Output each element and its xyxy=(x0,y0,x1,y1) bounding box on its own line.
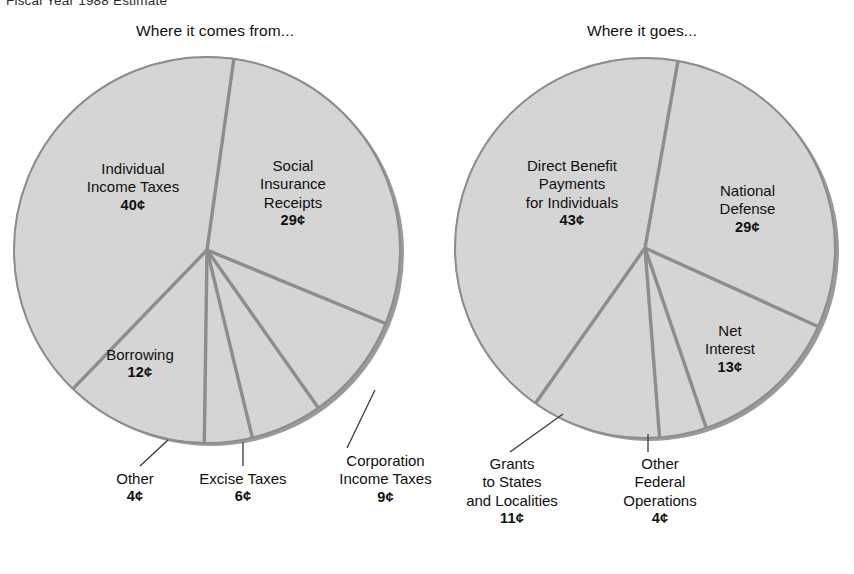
label-line-3: and Localities xyxy=(432,492,592,510)
label-line-1: Excise Taxes xyxy=(178,470,308,488)
label-value: 11¢ xyxy=(432,510,592,528)
label-line-2: Defense xyxy=(690,200,805,218)
label-value: 43¢ xyxy=(482,212,662,230)
label-value: 29¢ xyxy=(690,219,805,237)
label-line-2: Income Taxes xyxy=(58,178,208,196)
label-line-2: to States xyxy=(432,473,592,491)
leader-line-corporation xyxy=(347,390,375,448)
slice-label-excise-taxes: Excise Taxes 6¢ xyxy=(178,470,308,506)
label-value: 13¢ xyxy=(680,359,780,377)
label-line-2: Interest xyxy=(680,340,780,358)
slice-label-net-interest: Net Interest 13¢ xyxy=(680,322,780,376)
label-line-3: Receipts xyxy=(228,194,358,212)
slice-label-individual-income-taxes: Individual Income Taxes 40¢ xyxy=(58,160,208,214)
label-line-2: Insurance xyxy=(228,175,358,193)
slice-label-social-insurance-receipts: Social Insurance Receipts 29¢ xyxy=(228,157,358,230)
label-line-1: National xyxy=(690,182,805,200)
label-line-1: Direct Benefit xyxy=(482,157,662,175)
label-value: 40¢ xyxy=(58,197,208,215)
label-value: 6¢ xyxy=(178,488,308,506)
label-line-1: Borrowing xyxy=(75,346,205,364)
pie-chart-where-it-goes xyxy=(455,58,839,441)
label-line-1: Other xyxy=(95,470,175,488)
leader-line-other xyxy=(140,440,168,466)
label-value: 12¢ xyxy=(75,364,205,382)
label-line-1: Net xyxy=(680,322,780,340)
label-line-3: for Individuals xyxy=(482,194,662,212)
label-line-2: Federal xyxy=(600,473,720,491)
label-value: 4¢ xyxy=(600,510,720,528)
slice-label-borrowing: Borrowing 12¢ xyxy=(75,346,205,382)
label-line-1: Grants xyxy=(432,455,592,473)
label-value: 29¢ xyxy=(228,212,358,230)
pie-chart-where-it-comes-from xyxy=(14,57,404,446)
slice-label-national-defense: National Defense 29¢ xyxy=(690,182,805,236)
slice-label-other-federal-operations: Other Federal Operations 4¢ xyxy=(600,455,720,528)
label-value: 4¢ xyxy=(95,488,175,506)
label-line-1: Social xyxy=(228,157,358,175)
slice-label-grants-to-states-and-localities: Grants to States and Localities 11¢ xyxy=(432,455,592,528)
label-line-1: Individual xyxy=(58,160,208,178)
label-line-3: Operations xyxy=(600,492,720,510)
slice-label-other: Other 4¢ xyxy=(95,470,175,506)
label-line-2: Payments xyxy=(482,175,662,193)
budget-pie-figure: Fiscal Year 1988 Estimate Where it comes… xyxy=(0,0,854,574)
leader-line-grants xyxy=(510,414,563,452)
slice-label-direct-benefit-payments: Direct Benefit Payments for Individuals … xyxy=(482,157,662,230)
label-line-1: Other xyxy=(600,455,720,473)
